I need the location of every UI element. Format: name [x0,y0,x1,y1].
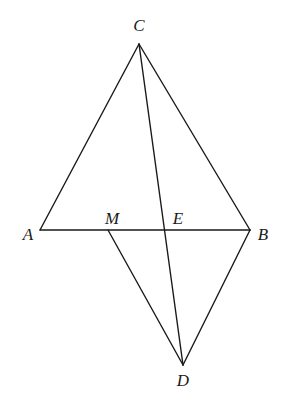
label-A: A [22,225,34,244]
point-labels: C A B M E D [22,16,269,390]
segment-CA [40,44,139,230]
geometry-diagram: C A B M E D [0,0,282,409]
label-D: D [176,371,190,390]
label-B: B [258,225,269,244]
segment-MD [108,230,183,365]
segment-CD [139,44,183,365]
label-E: E [172,209,184,228]
segments [40,44,250,365]
label-C: C [133,16,145,35]
segment-BD [183,230,250,365]
label-M: M [104,209,120,228]
segment-CB [139,44,250,230]
